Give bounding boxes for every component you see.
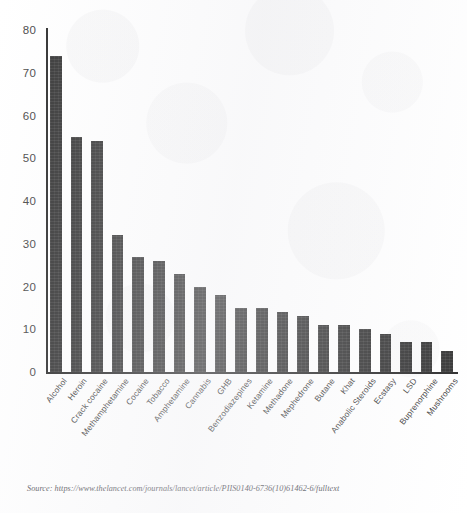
x-tick-label: Alcohol <box>43 376 68 404</box>
bars-layer <box>46 30 458 372</box>
x-tick-label: LSD <box>401 376 419 395</box>
y-tick-label: 80 <box>23 24 36 36</box>
bar <box>91 141 103 372</box>
x-axis-line <box>46 372 458 374</box>
x-axis-tick-labels: AlcoholHeroinCrack cocaineMethamphetamin… <box>46 376 466 476</box>
bar <box>297 316 309 372</box>
y-tick-label: 70 <box>23 67 36 79</box>
bar <box>71 137 83 372</box>
y-tick-label: 50 <box>23 152 36 164</box>
y-tick-label: 40 <box>23 195 36 207</box>
bar <box>277 312 289 372</box>
bar <box>194 287 206 373</box>
bar <box>400 342 412 372</box>
bar <box>318 325 330 372</box>
bar <box>421 342 433 372</box>
bar <box>359 329 371 372</box>
bar <box>380 334 392 372</box>
bar-chart-figure: 01020304050607080 AlcoholHeroinCrack coc… <box>0 0 467 513</box>
bar <box>256 308 268 372</box>
y-tick-label: 20 <box>23 281 36 293</box>
bar <box>132 257 144 372</box>
source-note: Source: https://www.thelancet.com/journa… <box>27 484 339 493</box>
plot-area <box>46 28 458 374</box>
y-tick-label: 10 <box>23 323 36 335</box>
y-tick-label: 30 <box>23 238 36 250</box>
bar <box>215 295 227 372</box>
bar <box>153 261 165 372</box>
y-axis-tick-labels: 01020304050607080 <box>0 28 42 374</box>
bar <box>338 325 350 372</box>
x-tick-label: Khat <box>338 376 357 396</box>
bar <box>50 56 62 372</box>
y-tick-label: 60 <box>23 110 36 122</box>
y-tick-label: 0 <box>29 366 36 378</box>
bar <box>112 235 124 372</box>
bar <box>441 351 453 372</box>
bar <box>174 274 186 372</box>
x-tick-label: Butane <box>312 376 337 404</box>
bar <box>235 308 247 372</box>
